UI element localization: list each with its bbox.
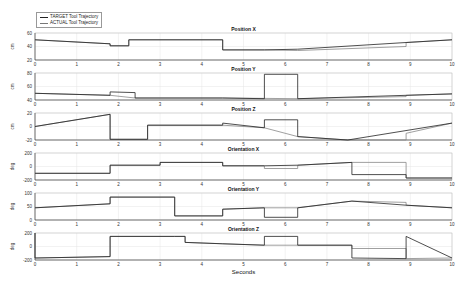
y-tick: 0 (29, 164, 32, 169)
trajectory-chart: 012345678910204060Position Xcm0123456789… (0, 0, 471, 286)
legend: TARGET Tool Trajectory ACTUAL Tool Traje… (36, 12, 102, 28)
x-tick: 3 (159, 222, 162, 227)
x-tick: 4 (201, 182, 204, 187)
x-tick: 10 (449, 182, 455, 187)
y-tick: 40 (27, 98, 33, 103)
x-tick: 10 (449, 262, 455, 267)
y-label: cm (10, 83, 15, 89)
x-tick: 4 (201, 222, 204, 227)
y-tick: 200 (24, 231, 32, 236)
x-tick: 9 (409, 262, 412, 267)
x-tick: 3 (159, 102, 162, 107)
x-tick: 9 (409, 102, 412, 107)
x-tick: 9 (409, 182, 412, 187)
x-tick: 3 (159, 142, 162, 147)
panel-title: Orientation X (228, 146, 260, 152)
x-tick: 2 (117, 142, 120, 147)
x-tick: 1 (75, 262, 78, 267)
panel-title: Position Y (231, 66, 256, 72)
x-tick: 8 (367, 102, 370, 107)
x-tick: 7 (326, 102, 329, 107)
x-tick: 4 (201, 262, 204, 267)
x-tick: 8 (367, 62, 370, 67)
y-tick: 0 (29, 244, 32, 249)
panel-title: Orientation Y (228, 186, 260, 192)
x-tick: 6 (284, 62, 287, 67)
x-tick: 4 (201, 102, 204, 107)
x-tick: 8 (367, 262, 370, 267)
panel-title: Position X (231, 26, 256, 32)
x-tick: 9 (409, 222, 412, 227)
y-tick: 100 (24, 191, 32, 196)
x-tick: 0 (34, 182, 37, 187)
y-tick: 0 (29, 124, 32, 129)
x-tick: 5 (242, 262, 245, 267)
x-tick: 0 (34, 102, 37, 107)
x-tick: 0 (34, 222, 37, 227)
y-tick: 40 (27, 44, 33, 49)
x-tick: 10 (449, 62, 455, 67)
x-tick: 2 (117, 222, 120, 227)
y-tick: -200 (23, 258, 33, 263)
x-tick: 6 (284, 182, 287, 187)
y-label: deg (10, 242, 15, 250)
x-tick: 10 (449, 142, 455, 147)
y-tick: 200 (24, 151, 32, 156)
x-tick: 8 (367, 222, 370, 227)
y-tick: 80 (27, 71, 33, 76)
panel-title: Position Z (231, 106, 255, 112)
x-tick: 2 (117, 182, 120, 187)
x-tick: 9 (409, 62, 412, 67)
y-tick: 20 (27, 58, 33, 63)
panel-title: Orientation Z (228, 226, 259, 232)
actual-swatch (40, 23, 48, 24)
y-tick: 60 (27, 31, 33, 36)
x-tick: 3 (159, 62, 162, 67)
x-tick: 1 (75, 222, 78, 227)
x-tick: 7 (326, 62, 329, 67)
y-label: cm (10, 43, 15, 49)
y-tick: 60 (27, 84, 33, 89)
x-tick: 6 (284, 222, 287, 227)
y-tick: -20 (25, 138, 32, 143)
x-tick: 10 (449, 222, 455, 227)
x-tick: 1 (75, 142, 78, 147)
x-tick: 7 (326, 262, 329, 267)
x-tick: 1 (75, 102, 78, 107)
x-tick: 4 (201, 142, 204, 147)
y-label: deg (10, 162, 15, 170)
x-tick: 6 (284, 142, 287, 147)
x-tick: 10 (449, 102, 455, 107)
x-tick: 8 (367, 182, 370, 187)
x-tick: 3 (159, 262, 162, 267)
x-tick: 0 (34, 62, 37, 67)
x-tick: 8 (367, 142, 370, 147)
y-tick: 50 (27, 204, 33, 209)
x-tick: 7 (326, 182, 329, 187)
target-swatch (40, 17, 48, 18)
x-tick: 1 (75, 182, 78, 187)
x-tick: 3 (159, 182, 162, 187)
x-tick: 0 (34, 262, 37, 267)
x-tick: 6 (284, 102, 287, 107)
x-tick: 6 (284, 262, 287, 267)
y-tick: 20 (27, 111, 33, 116)
y-label: deg (10, 202, 15, 210)
y-tick: -200 (23, 178, 33, 183)
x-tick: 2 (117, 262, 120, 267)
x-tick: 4 (201, 62, 204, 67)
x-tick: 7 (326, 142, 329, 147)
x-tick: 9 (409, 142, 412, 147)
y-label: cm (10, 123, 15, 129)
y-tick: 0 (29, 218, 32, 223)
x-tick: 7 (326, 222, 329, 227)
x-tick: 2 (117, 62, 120, 67)
x-tick: 2 (117, 102, 120, 107)
x-tick: 1 (75, 62, 78, 67)
x-axis-label: Seconds (232, 269, 255, 275)
legend-actual-label: ACTUAL Tool Trajectory (50, 20, 98, 26)
x-tick: 0 (34, 142, 37, 147)
legend-actual: ACTUAL Tool Trajectory (40, 20, 98, 26)
